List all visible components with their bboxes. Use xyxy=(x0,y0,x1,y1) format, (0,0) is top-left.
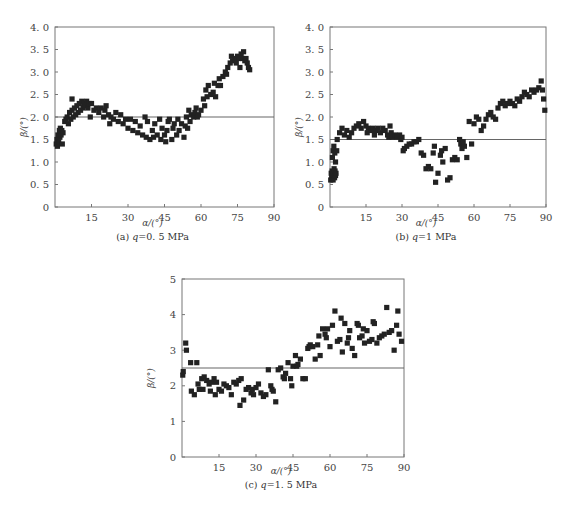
data-point xyxy=(339,316,344,321)
data-point xyxy=(288,376,293,381)
data-point xyxy=(330,323,335,328)
data-point xyxy=(362,340,367,345)
data-point xyxy=(181,369,186,374)
data-point xyxy=(285,360,290,365)
data-point xyxy=(219,389,224,394)
x-axis-label: α/(°) xyxy=(271,466,292,476)
data-point xyxy=(237,403,242,408)
data-point xyxy=(271,389,276,394)
data-point xyxy=(332,308,337,313)
y-axis-label: β/(°) xyxy=(146,368,156,389)
data-point xyxy=(188,360,193,365)
data-point xyxy=(342,321,347,326)
data-point xyxy=(283,371,288,376)
data-point xyxy=(289,383,294,388)
data-point xyxy=(364,328,369,333)
data-point xyxy=(298,357,303,362)
data-point xyxy=(263,392,268,397)
data-point xyxy=(356,323,361,328)
data-point xyxy=(345,340,350,345)
data-point xyxy=(315,342,320,347)
x-tick-label: 15 xyxy=(213,462,226,473)
data-point xyxy=(359,333,364,338)
chart-caption: (c) q=1. 5 MPa xyxy=(245,479,318,490)
chart-c: 012345153045607590β/(°)α/(°)(c) q=1. 5 M… xyxy=(0,0,571,519)
data-point xyxy=(229,392,234,397)
data-point xyxy=(273,399,278,404)
data-point xyxy=(337,337,342,342)
y-tick-label: 1 xyxy=(170,416,176,427)
data-point xyxy=(251,392,256,397)
y-tick-label: 4 xyxy=(170,309,176,320)
y-tick-label: 3 xyxy=(170,345,176,356)
data-point xyxy=(396,332,401,337)
y-tick-label: 5 xyxy=(170,274,176,285)
data-point xyxy=(382,332,387,337)
data-point xyxy=(293,353,298,358)
data-point xyxy=(325,326,330,331)
data-point xyxy=(278,365,283,370)
data-point xyxy=(320,326,325,331)
x-tick-label: 30 xyxy=(250,462,263,473)
data-point xyxy=(200,387,205,392)
data-point xyxy=(346,335,351,340)
data-point xyxy=(352,353,357,358)
data-point xyxy=(372,321,377,326)
data-point xyxy=(318,353,323,358)
data-point xyxy=(195,381,200,386)
data-point xyxy=(395,308,400,313)
chart-c-svg: 012345153045607590β/(°)α/(°)(c) q=1. 5 M… xyxy=(0,0,571,519)
data-point xyxy=(226,385,231,390)
data-point xyxy=(324,335,329,340)
data-point xyxy=(214,380,219,385)
data-point xyxy=(374,340,379,345)
data-point xyxy=(241,397,246,402)
data-point xyxy=(183,340,188,345)
y-tick-label: 0 xyxy=(170,452,176,463)
data-point xyxy=(327,344,332,349)
x-tick-label: 60 xyxy=(324,462,337,473)
data-point xyxy=(213,392,218,397)
data-point xyxy=(389,328,394,333)
y-tick-label: 2 xyxy=(170,380,176,391)
data-point xyxy=(394,323,399,328)
data-point xyxy=(295,362,300,367)
data-point xyxy=(194,360,199,365)
data-point xyxy=(192,392,197,397)
data-point xyxy=(350,346,355,351)
caption-prefix: (c) xyxy=(245,479,261,490)
data-point xyxy=(208,389,213,394)
data-point xyxy=(340,349,345,354)
data-point xyxy=(313,357,318,362)
x-tick-label: 75 xyxy=(361,462,374,473)
data-point xyxy=(184,348,189,353)
data-point xyxy=(266,367,271,372)
data-point xyxy=(303,376,308,381)
data-point xyxy=(369,337,374,342)
data-point xyxy=(256,381,261,386)
data-point xyxy=(384,305,389,310)
data-point xyxy=(399,339,404,344)
data-point xyxy=(316,333,321,338)
data-point xyxy=(310,344,315,349)
data-point xyxy=(239,376,244,381)
data-point xyxy=(347,328,352,333)
caption-value: =1. 5 MPa xyxy=(267,479,318,490)
x-tick-label: 90 xyxy=(398,462,411,473)
data-point xyxy=(392,348,397,353)
data-point xyxy=(282,376,287,381)
